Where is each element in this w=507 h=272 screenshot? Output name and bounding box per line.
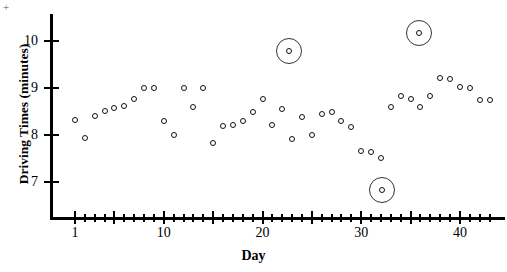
- x-tick-minor-26: [321, 214, 323, 222]
- x-tick-minor-23: [291, 214, 293, 222]
- data-point: [408, 96, 414, 102]
- data-point: [427, 93, 433, 99]
- x-tick-minor-33: [390, 214, 392, 222]
- data-point: [260, 96, 266, 102]
- data-point: [417, 104, 423, 110]
- x-tick-minor-37: [429, 214, 431, 222]
- data-point: [329, 109, 335, 115]
- x-tick-minor-4: [104, 214, 106, 222]
- data-point: [141, 85, 147, 91]
- x-tick-minor-22: [281, 214, 283, 222]
- data-point: [111, 105, 117, 111]
- x-tick-minor-43: [489, 214, 491, 222]
- x-tick-minor-13: [192, 214, 194, 222]
- data-point: [457, 84, 463, 90]
- x-tick-minor-28: [340, 214, 342, 222]
- data-point: [230, 122, 236, 128]
- x-tick-minor-29: [350, 214, 352, 222]
- x-tick-major-15: [212, 211, 214, 224]
- x-tick-minor-39: [449, 214, 451, 222]
- y-tick-10: [44, 40, 59, 42]
- x-tick-minor-17: [232, 214, 234, 222]
- data-point: [161, 118, 167, 124]
- data-point: [131, 96, 137, 102]
- x-tick-major-25: [311, 211, 313, 224]
- x-tick-minor-19: [252, 214, 254, 222]
- data-point: [368, 149, 374, 155]
- x-tick-major-30: [360, 211, 362, 224]
- x-axis-title: Day: [0, 248, 507, 264]
- scatter-plot: + 78910 110203040 Driving Times (minutes…: [0, 0, 507, 272]
- data-point: [181, 85, 187, 91]
- data-point: [210, 140, 216, 146]
- outlier-low-1: [379, 187, 385, 193]
- data-point: [190, 104, 196, 110]
- data-point: [388, 104, 394, 110]
- y-tick-9: [44, 87, 59, 89]
- x-tick-minor-32: [380, 214, 382, 222]
- x-tick-major-40: [459, 211, 461, 224]
- y-axis-line: [50, 14, 53, 220]
- data-point: [467, 85, 473, 91]
- x-tick-minor-41: [469, 214, 471, 222]
- data-point: [437, 75, 443, 81]
- x-tick-minor-2: [84, 214, 86, 222]
- data-point: [309, 132, 315, 138]
- x-tick-minor-18: [242, 214, 244, 222]
- y-tick-8: [44, 134, 59, 136]
- data-point: [358, 148, 364, 154]
- data-point: [92, 113, 98, 119]
- outlier-high-1: [286, 48, 292, 54]
- x-tick-minor-34: [400, 214, 402, 222]
- data-point: [121, 103, 127, 109]
- data-point: [289, 136, 295, 142]
- x-tick-minor-7: [133, 214, 135, 222]
- y-tick-7: [44, 181, 59, 183]
- data-point: [151, 85, 157, 91]
- data-point: [319, 111, 325, 117]
- x-tick-minor-27: [331, 214, 333, 222]
- x-tick-minor-9: [153, 214, 155, 222]
- data-point: [200, 85, 206, 91]
- x-tick-major-35: [410, 211, 412, 224]
- data-point: [171, 132, 177, 138]
- data-point: [477, 97, 483, 103]
- x-tick-minor-11: [173, 214, 175, 222]
- corner-mark: +: [3, 1, 9, 13]
- x-tick-minor-24: [301, 214, 303, 222]
- x-tick-minor-8: [143, 214, 145, 222]
- x-tick-minor-36: [419, 214, 421, 222]
- x-tick-minor-31: [370, 214, 372, 222]
- data-point: [82, 135, 88, 141]
- x-tick-label-40: 40: [445, 226, 475, 240]
- x-tick-major-5: [113, 211, 115, 224]
- data-point: [240, 118, 246, 124]
- y-axis-title: Driving Times (minutes): [16, 14, 32, 214]
- x-tick-minor-6: [123, 214, 125, 222]
- data-point: [487, 97, 493, 103]
- data-point: [348, 124, 354, 130]
- data-point: [72, 117, 78, 123]
- data-point: [378, 155, 384, 161]
- x-tick-minor-38: [439, 214, 441, 222]
- x-tick-label-10: 10: [149, 226, 179, 240]
- x-tick-label-20: 20: [248, 226, 278, 240]
- x-tick-major-1: [74, 211, 76, 224]
- x-tick-major-20: [262, 211, 264, 224]
- data-point: [102, 108, 108, 114]
- x-tick-minor-12: [183, 214, 185, 222]
- data-point: [299, 114, 305, 120]
- x-axis-line: [50, 217, 505, 220]
- x-tick-minor-21: [271, 214, 273, 222]
- x-tick-major-10: [163, 211, 165, 224]
- x-tick-label-30: 30: [346, 226, 376, 240]
- data-point: [250, 109, 256, 115]
- data-point: [269, 122, 275, 128]
- x-tick-minor-16: [222, 214, 224, 222]
- x-tick-minor-42: [479, 214, 481, 222]
- data-point: [338, 118, 344, 124]
- data-point: [398, 93, 404, 99]
- data-point: [447, 76, 453, 82]
- data-point: [220, 123, 226, 129]
- x-tick-label-1: 1: [60, 226, 90, 240]
